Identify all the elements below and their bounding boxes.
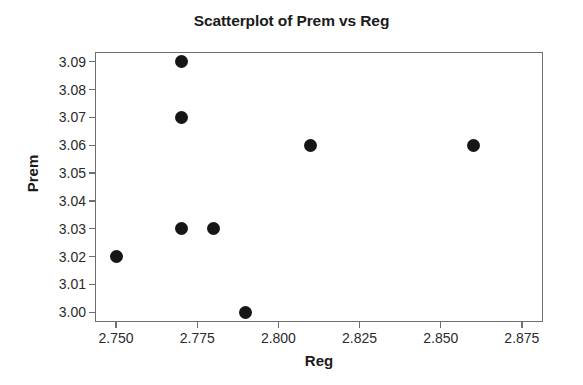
y-axis-tick-mark <box>89 145 95 146</box>
x-axis-tick-label: 2.775 <box>162 330 232 346</box>
x-axis-tick-label: 2.850 <box>406 330 476 346</box>
scatterplot-figure: Scatterplot of Prem vs Reg 3.003.013.023… <box>0 0 583 385</box>
x-axis-tick-label: 2.800 <box>243 330 313 346</box>
y-axis-tick-labels: 3.003.013.023.033.043.053.063.073.083.09 <box>34 0 86 385</box>
x-axis-tick-mark <box>359 322 360 328</box>
y-axis-tick-label: 3.03 <box>40 221 86 237</box>
y-axis-tick-mark <box>89 228 95 229</box>
y-axis-tick-mark <box>89 256 95 257</box>
plot-frame <box>95 52 543 322</box>
y-axis-tick-mark <box>89 61 95 62</box>
y-axis-tick-mark <box>89 284 95 285</box>
y-axis-tick-mark <box>89 200 95 201</box>
x-axis-tick-mark <box>115 322 116 328</box>
x-axis-tick-label: 2.750 <box>81 330 151 346</box>
x-axis-title: Reg <box>95 352 543 369</box>
y-axis-tick-label: 3.01 <box>40 276 86 292</box>
y-axis-tick-label: 3.08 <box>40 82 86 98</box>
y-axis-tick-label: 3.09 <box>40 54 86 70</box>
y-axis-tick-label: 3.06 <box>40 137 86 153</box>
chart-title: Scatterplot of Prem vs Reg <box>0 12 583 30</box>
y-axis-tick-label: 3.04 <box>40 193 86 209</box>
y-axis-tick-label: 3.00 <box>40 304 86 320</box>
x-axis-tick-mark <box>197 322 198 328</box>
y-axis-tick-mark <box>89 89 95 90</box>
y-axis-tick-mark <box>89 172 95 173</box>
x-axis-tick-mark <box>440 322 441 328</box>
y-axis-tick-label: 3.07 <box>40 109 86 125</box>
x-axis-tick-mark <box>521 322 522 328</box>
y-axis-tick-label: 3.05 <box>40 165 86 181</box>
y-axis-tick-label: 3.02 <box>40 249 86 265</box>
y-axis-tick-mark <box>89 312 95 313</box>
x-axis-tick-label: 2.875 <box>487 330 557 346</box>
x-axis-tick-mark <box>278 322 279 328</box>
y-axis-tick-mark <box>89 117 95 118</box>
y-axis-title: Prem <box>24 134 41 214</box>
x-axis-tick-label: 2.825 <box>325 330 395 346</box>
